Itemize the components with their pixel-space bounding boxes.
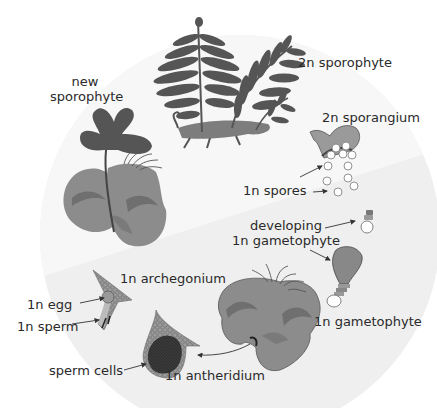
label-new-line: new <box>50 74 120 89</box>
label-1n-gametophyte: 1n gametophyte <box>314 314 422 329</box>
fern-life-cycle-diagram: new sporophyte 2n sporophyte 2n sporangi… <box>0 0 437 408</box>
label-1n-egg: 1n egg <box>27 297 72 312</box>
label-new-sporophyte: new sporophyte <box>50 74 120 104</box>
label-2n-sporophyte: 2n sporophyte <box>298 55 392 70</box>
label-1n-archegonium: 1n archegonium <box>120 271 226 286</box>
label-1n-spores: 1n spores <box>243 183 306 198</box>
label-1n-antheridium: 1n antheridium <box>165 368 265 383</box>
label-sperm-cells: sperm cells <box>49 363 123 378</box>
label-1n-gametophyte-line: 1n gametophyte <box>230 233 342 248</box>
label-2n-sporangium: 2n sporangium <box>322 110 420 125</box>
label-1n-sperm: 1n sperm <box>17 319 78 334</box>
label-developing-line: developing <box>230 218 342 233</box>
label-developing-gametophyte: developing 1n gametophyte <box>230 218 342 248</box>
label-sporophyte-line: sporophyte <box>50 89 120 104</box>
